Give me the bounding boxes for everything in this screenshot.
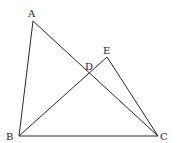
- point-label-c: C: [160, 131, 168, 142]
- segment-ab: [19, 21, 33, 136]
- geometry-diagram: A B C D E: [0, 0, 182, 143]
- point-label-a: A: [27, 8, 36, 19]
- segment-be: [19, 57, 107, 136]
- segment-ac: [33, 21, 158, 136]
- segments-group: [19, 21, 158, 136]
- point-label-b: B: [6, 131, 13, 142]
- point-label-e: E: [103, 45, 110, 56]
- point-label-d: D: [85, 61, 93, 72]
